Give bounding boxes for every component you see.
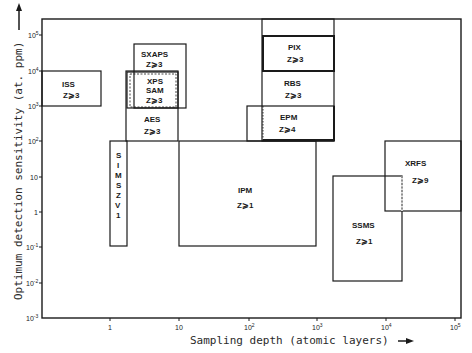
svg-text:S: S — [116, 151, 122, 160]
svg-text:Z⩾4: Z⩾4 — [279, 125, 296, 134]
x-axis-ticks: 1 10 102 103 104 105 — [108, 318, 461, 331]
svg-text:10-3: 10-3 — [26, 313, 38, 322]
svg-text:10-2: 10-2 — [26, 278, 38, 287]
region-sims: S I M S Z V 1 — [110, 141, 127, 246]
svg-text:M: M — [115, 171, 122, 180]
svg-text:Z⩾3: Z⩾3 — [144, 127, 161, 136]
svg-text:IPM: IPM — [238, 186, 253, 195]
svg-text:Z⩾3: Z⩾3 — [287, 55, 304, 64]
technique-comparison-chart: Optimum detection sensitivity (at. ppm) … — [0, 0, 472, 353]
svg-text:105: 105 — [450, 322, 461, 331]
svg-text:105: 105 — [28, 30, 39, 39]
svg-text:1: 1 — [108, 324, 112, 331]
svg-text:Optimum detection sensitivity: Optimum detection sensitivity (at. ppm) — [12, 42, 25, 300]
svg-text:Z: Z — [116, 191, 121, 200]
region-ipm: IPM Z⩾1 — [179, 141, 316, 246]
svg-text:104: 104 — [381, 322, 392, 331]
svg-text:Z⩾3: Z⩾3 — [285, 91, 302, 100]
plot-frame — [42, 19, 461, 318]
y-axis-arrow-icon — [16, 3, 22, 30]
svg-text:Z⩾3: Z⩾3 — [146, 96, 163, 105]
svg-text:103: 103 — [28, 101, 39, 110]
svg-text:ISS: ISS — [62, 80, 76, 89]
svg-text:SXAPS: SXAPS — [141, 50, 169, 59]
x-axis-title: Sampling depth (atomic layers) — [190, 334, 389, 347]
region-pix: PIX Z⩾3 — [263, 36, 334, 71]
svg-text:V: V — [115, 201, 121, 210]
svg-text:103: 103 — [312, 322, 323, 331]
svg-text:RBS: RBS — [284, 79, 302, 88]
svg-text:XPS: XPS — [147, 77, 164, 86]
region-ssms: SSMS Z⩾1 — [333, 176, 402, 281]
y-axis-title: Optimum detection sensitivity (at. ppm) — [12, 42, 25, 300]
svg-text:Z⩾3: Z⩾3 — [146, 60, 163, 69]
svg-text:I: I — [117, 161, 119, 170]
svg-text:102: 102 — [244, 322, 255, 331]
svg-text:Z⩾3: Z⩾3 — [63, 91, 80, 100]
x-axis-arrow-icon — [398, 338, 414, 344]
svg-text:PIX: PIX — [288, 43, 302, 52]
svg-text:AES: AES — [144, 115, 161, 124]
svg-text:S: S — [116, 181, 122, 190]
region-epm: EPM Z⩾4 — [247, 106, 334, 141]
svg-text:1: 1 — [116, 211, 121, 220]
svg-text:1: 1 — [34, 209, 38, 216]
svg-text:104: 104 — [28, 66, 39, 75]
svg-text:SSMS: SSMS — [352, 221, 375, 230]
svg-text:Z⩾1: Z⩾1 — [356, 237, 373, 246]
svg-text:102: 102 — [28, 136, 39, 145]
y-axis-ticks: 105 104 103 102 10 1 10-1 10-2 10-3 — [26, 30, 42, 322]
region-xps-sam: XPS SAM Z⩾3 — [127, 72, 178, 108]
region-rbs: RBS Z⩾3 — [262, 19, 334, 141]
svg-text:10-1: 10-1 — [26, 242, 38, 251]
svg-text:SAM: SAM — [146, 86, 164, 95]
svg-text:EPM: EPM — [280, 113, 298, 122]
region-iss: ISS Z⩾3 — [42, 71, 101, 106]
svg-text:10: 10 — [175, 324, 183, 331]
svg-text:Z⩾9: Z⩾9 — [412, 176, 429, 185]
svg-text:10: 10 — [30, 174, 38, 181]
svg-text:Z⩾1: Z⩾1 — [237, 201, 254, 210]
svg-text:XRFS: XRFS — [405, 159, 427, 168]
